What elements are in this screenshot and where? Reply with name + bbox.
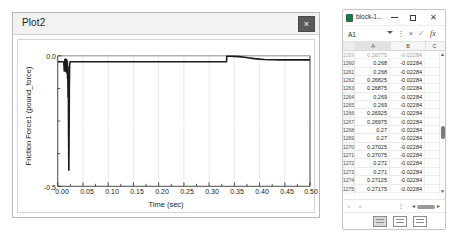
row-header[interactable]: 1262	[343, 76, 355, 84]
close-icon[interactable]: ✕	[424, 10, 442, 26]
cell-column-b[interactable]: -0.02284	[391, 84, 425, 92]
cell-column-a[interactable]: 0.269	[356, 93, 390, 101]
cell-column-b[interactable]: -0.02284	[391, 143, 425, 151]
scroll-down-icon[interactable]: ▼	[440, 188, 445, 195]
scroll-up-icon[interactable]: ▲	[440, 51, 445, 58]
column-header-b[interactable]: B	[391, 42, 426, 50]
row-header[interactable]: 1261	[343, 68, 355, 76]
close-icon[interactable]: ×	[298, 16, 315, 32]
table-row[interactable]: 12740.27125-0.02284	[343, 176, 445, 184]
table-row[interactable]: 12700.27025-0.02284	[343, 143, 445, 151]
row-header[interactable]: 1269	[343, 134, 355, 142]
cell-column-a[interactable]: 0.26925	[356, 109, 390, 117]
cell-column-b[interactable]: -0.02284	[391, 176, 425, 184]
table-row[interactable]: 12620.26825-0.02284	[343, 76, 445, 84]
cell-column-b[interactable]: -0.02284	[391, 51, 425, 59]
cell-column-a[interactable]: 0.27125	[356, 176, 390, 184]
cell-column-a[interactable]: 0.26975	[356, 118, 390, 126]
check-icon[interactable]: ✓	[416, 28, 426, 40]
cell-column-a[interactable]: 0.27175	[356, 185, 390, 193]
cell-column-a[interactable]: 0.27	[356, 126, 390, 134]
cell-column-a[interactable]: 0.272	[356, 193, 390, 195]
vertical-scrollbar[interactable]: ▲ ▼	[439, 51, 445, 195]
cell-column-a[interactable]: 0.268	[356, 59, 390, 67]
row-header[interactable]: 1263	[343, 84, 355, 92]
maximize-icon[interactable]	[404, 10, 422, 26]
cell-column-b[interactable]: -0.02284	[391, 59, 425, 67]
view-page-layout-icon[interactable]	[393, 216, 407, 227]
horizontal-scrollbar[interactable]: ◄ ►	[411, 204, 441, 209]
row-header[interactable]: 1273	[343, 168, 355, 176]
cell-column-a[interactable]: 0.271	[356, 159, 390, 167]
cell-column-a[interactable]: 0.268	[356, 68, 390, 76]
fx-icon[interactable]: fx	[428, 28, 438, 40]
table-row[interactable]: 12680.27-0.02284	[343, 126, 445, 134]
row-header[interactable]: 1266	[343, 109, 355, 117]
table-row[interactable]: 12760.272-0.02284	[343, 193, 445, 195]
row-header[interactable]: 1274	[343, 176, 355, 184]
table-row[interactable]: 12600.268-0.02284	[343, 59, 445, 67]
cell-column-a[interactable]: 0.26825	[356, 76, 390, 84]
row-header[interactable]: 1268	[343, 126, 355, 134]
row-header[interactable]: 1265	[343, 101, 355, 109]
hscroll-right-icon[interactable]: ►	[436, 203, 441, 209]
table-row[interactable]: 12640.269-0.02284	[343, 93, 445, 101]
cell-column-a[interactable]: 0.269	[356, 101, 390, 109]
table-row[interactable]: 12590.26775-0.02284	[343, 51, 445, 59]
chevron-down-icon[interactable]	[387, 31, 393, 34]
cell-column-b[interactable]: -0.02284	[391, 109, 425, 117]
cell-column-b[interactable]: -0.02284	[391, 134, 425, 142]
cell-column-b[interactable]: -0.02284	[391, 151, 425, 159]
row-header[interactable]: 1276	[343, 193, 355, 195]
cell-column-b[interactable]: -0.02284	[391, 101, 425, 109]
cell-column-a[interactable]: 0.27075	[356, 151, 390, 159]
sheet-next-icon[interactable]: ›	[359, 203, 361, 209]
row-header[interactable]: 1264	[343, 93, 355, 101]
select-all-corner[interactable]	[343, 42, 356, 50]
view-normal-icon[interactable]	[373, 216, 387, 227]
cell-column-b[interactable]: -0.02284	[391, 193, 425, 195]
view-page-break-icon[interactable]	[413, 216, 427, 227]
name-box-input[interactable]: A1	[345, 28, 371, 40]
cell-column-a[interactable]: 0.26875	[356, 84, 390, 92]
table-row[interactable]: 12730.271-0.02284	[343, 168, 445, 176]
table-row[interactable]: 12630.26875-0.02284	[343, 84, 445, 92]
table-row[interactable]: 12720.271-0.02284	[343, 159, 445, 167]
cell-column-a[interactable]: 0.26775	[356, 51, 390, 59]
scrollbar-thumb[interactable]	[441, 126, 445, 139]
table-row[interactable]: 12670.26975-0.02284	[343, 118, 445, 126]
sheet-more-icon[interactable]: ⋮	[398, 202, 404, 209]
row-header[interactable]: 1260	[343, 59, 355, 67]
cell-column-b[interactable]: -0.02284	[391, 68, 425, 76]
cell-column-b[interactable]: -0.02284	[391, 93, 425, 101]
cell-column-a[interactable]: 0.27	[356, 134, 390, 142]
cell-column-b[interactable]: -0.02284	[391, 168, 425, 176]
row-header[interactable]: 1271	[343, 151, 355, 159]
sheet-prev-icon[interactable]: ‹	[348, 203, 350, 209]
cell-column-a[interactable]: 0.271	[356, 168, 390, 176]
table-row[interactable]: 12650.269-0.02284	[343, 101, 445, 109]
cancel-icon[interactable]: ×	[406, 28, 416, 40]
cell-column-b[interactable]: -0.02284	[391, 185, 425, 193]
table-row[interactable]: 12610.268-0.02284	[343, 68, 445, 76]
row-header[interactable]: 1272	[343, 159, 355, 167]
cell-column-b[interactable]: -0.02284	[391, 126, 425, 134]
row-header[interactable]: 1259	[343, 51, 355, 59]
row-header[interactable]: 1275	[343, 185, 355, 193]
row-header[interactable]: 1270	[343, 143, 355, 151]
column-header-a[interactable]: A	[356, 42, 391, 50]
minimize-icon[interactable]	[385, 10, 403, 26]
table-row[interactable]: 12660.26925-0.02284	[343, 109, 445, 117]
column-header-c[interactable]: C	[426, 42, 443, 50]
table-row[interactable]: 12750.27175-0.02284	[343, 185, 445, 193]
cell-column-b[interactable]: -0.02284	[391, 76, 425, 84]
row-header[interactable]: 1267	[343, 118, 355, 126]
hscroll-left-icon[interactable]: ◄	[411, 203, 416, 209]
cell-column-a[interactable]: 0.27025	[356, 143, 390, 151]
more-vertical-icon[interactable]: ⋮	[396, 28, 406, 40]
hscroll-thumb[interactable]	[417, 205, 435, 209]
table-row[interactable]: 12690.27-0.02284	[343, 134, 445, 142]
table-row[interactable]: 12710.27075-0.02284	[343, 151, 445, 159]
cell-column-b[interactable]: -0.02284	[391, 159, 425, 167]
cell-column-b[interactable]: -0.02284	[391, 118, 425, 126]
